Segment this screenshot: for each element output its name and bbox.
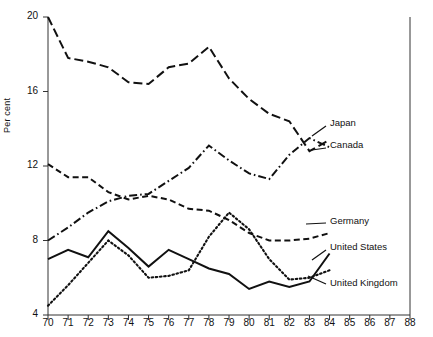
leader-line-japan bbox=[312, 126, 326, 136]
x-tick-label: 74 bbox=[118, 317, 138, 328]
x-tick-label: 75 bbox=[139, 317, 159, 328]
leader-line-germany bbox=[306, 223, 326, 224]
leader-line-united-states bbox=[312, 250, 326, 260]
x-tick-label: 83 bbox=[299, 317, 319, 328]
x-tick-label: 85 bbox=[340, 317, 360, 328]
series-line-japan bbox=[48, 17, 330, 151]
series-label-germany: Germany bbox=[330, 215, 369, 226]
series-label-canada: Canada bbox=[330, 139, 363, 150]
series-line-canada bbox=[48, 138, 330, 240]
x-tick-label: 87 bbox=[380, 317, 400, 328]
x-tick-label: 80 bbox=[239, 317, 259, 328]
x-tick-label: 72 bbox=[78, 317, 98, 328]
y-tick-label: 20 bbox=[16, 10, 38, 21]
series-line-germany bbox=[48, 164, 330, 240]
x-tick-label: 73 bbox=[98, 317, 118, 328]
x-tick-label: 86 bbox=[360, 317, 380, 328]
x-tick-label: 82 bbox=[279, 317, 299, 328]
line-chart: Per cent 4812162070717273747576777879808… bbox=[0, 0, 433, 337]
y-tick-label: 8 bbox=[16, 234, 38, 245]
x-tick-label: 70 bbox=[38, 317, 58, 328]
series-label-united-states: United States bbox=[330, 241, 387, 252]
y-tick-label: 16 bbox=[16, 85, 38, 96]
series-label-japan: Japan bbox=[330, 117, 356, 128]
y-tick-label: 4 bbox=[16, 308, 38, 319]
x-tick-label: 88 bbox=[400, 317, 420, 328]
y-tick-label: 12 bbox=[16, 159, 38, 170]
x-tick-label: 77 bbox=[179, 317, 199, 328]
x-tick-label: 76 bbox=[159, 317, 179, 328]
x-tick-label: 81 bbox=[259, 317, 279, 328]
x-tick-label: 71 bbox=[58, 317, 78, 328]
x-tick-label: 79 bbox=[219, 317, 239, 328]
series-label-united-kingdom: United Kingdom bbox=[330, 277, 398, 288]
x-tick-label: 84 bbox=[320, 317, 340, 328]
x-tick-label: 78 bbox=[199, 317, 219, 328]
